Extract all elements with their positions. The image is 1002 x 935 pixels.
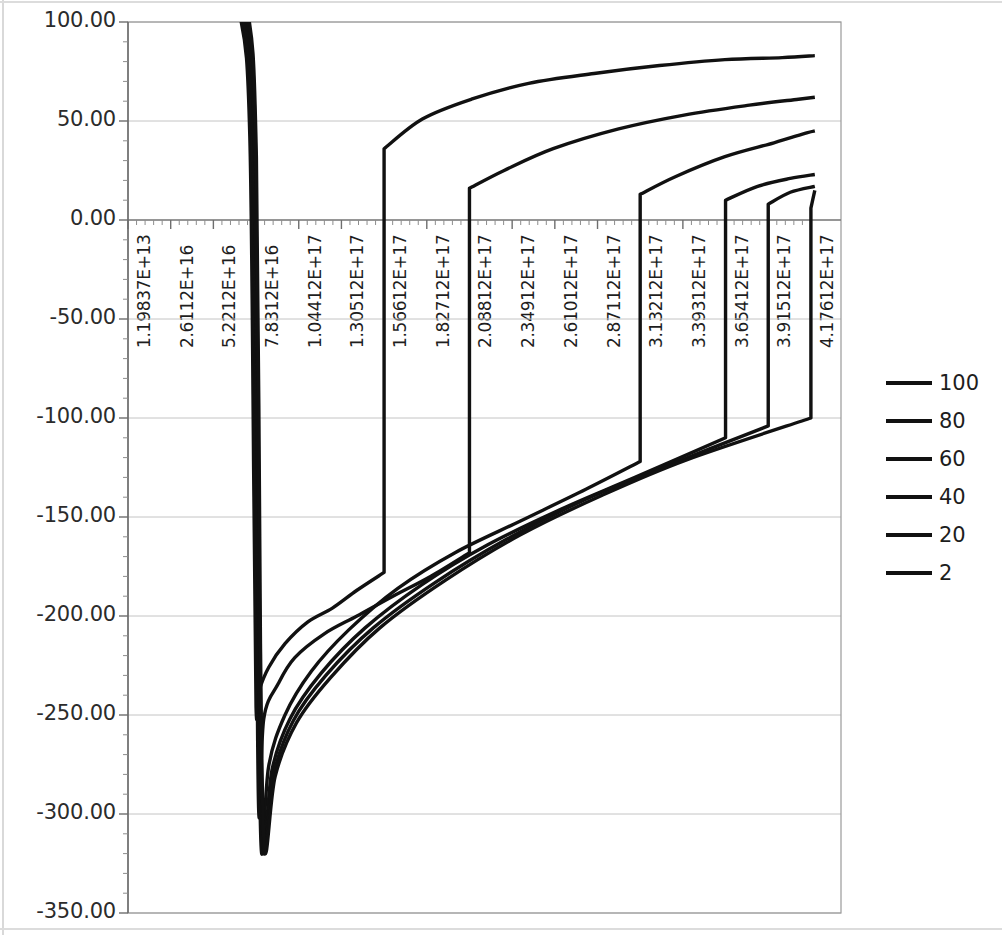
series-group [144,0,814,854]
legend-label: 80 [939,411,966,432]
legend-item-80[interactable]: 80 [886,402,1002,440]
legend-swatch-line-icon [886,571,932,575]
legend-swatch-line-icon [886,419,932,423]
legend-label: 2 [939,563,952,584]
series-line-20[interactable] [144,0,814,854]
legend-label: 100 [939,373,979,394]
series-line-80[interactable] [144,0,814,818]
legend-item-20[interactable]: 20 [886,516,1002,554]
legend-item-100[interactable]: 100 [886,364,1002,402]
legend-label: 20 [939,525,966,546]
plot-area [0,0,1002,935]
legend-swatch-line-icon [886,495,932,499]
chart-legend: 100806040202 [886,364,1002,592]
plot-border [128,22,841,913]
legend-label: 60 [939,449,966,470]
legend-swatch-line-icon [886,381,932,385]
series-line-60[interactable] [144,0,814,854]
series-line-100[interactable] [144,0,814,719]
legend-item-2[interactable]: 2 [886,554,1002,592]
legend-item-60[interactable]: 60 [886,440,1002,478]
series-line-2[interactable] [144,0,814,854]
legend-swatch-line-icon [886,457,932,461]
legend-swatch-line-icon [886,533,932,537]
legend-item-40[interactable]: 40 [886,478,1002,516]
chart-container: 100.0050.000.00-50.00-100.00-150.00-200.… [0,0,1002,935]
series-line-40[interactable] [144,0,814,854]
legend-label: 40 [939,487,966,508]
